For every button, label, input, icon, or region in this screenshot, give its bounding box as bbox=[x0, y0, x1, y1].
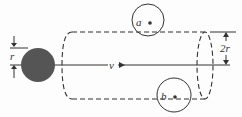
velocity-arrow-icon bbox=[119, 62, 125, 68]
radius-label: r bbox=[10, 50, 15, 62]
velocity-axis: v bbox=[55, 59, 230, 71]
particle-a: a bbox=[132, 4, 164, 36]
velocity-label: v bbox=[109, 59, 114, 71]
particle-b-dot bbox=[173, 95, 177, 99]
diagram-canvas: r v 2r a bbox=[0, 0, 242, 117]
diagram-svg: r v 2r a bbox=[0, 0, 242, 117]
particle-a-label: a bbox=[136, 16, 142, 28]
projectile-sphere bbox=[21, 48, 55, 82]
diameter-dimension: 2r bbox=[210, 32, 236, 65]
particle-b: b bbox=[157, 78, 191, 112]
particle-a-dot bbox=[148, 21, 152, 25]
diameter-label: 2r bbox=[220, 42, 231, 54]
particle-b-label: b bbox=[161, 90, 167, 102]
